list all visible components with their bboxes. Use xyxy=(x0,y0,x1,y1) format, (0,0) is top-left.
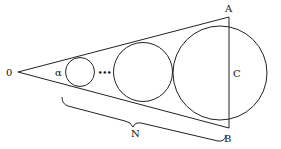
label-ellipsis: ••• xyxy=(98,68,111,77)
cone-lower-line xyxy=(18,72,229,128)
large-circle xyxy=(173,26,267,120)
small-circle xyxy=(66,58,95,87)
label-angle: α xyxy=(55,67,62,78)
label-chord-c: C xyxy=(233,68,241,79)
brace-n xyxy=(62,97,226,141)
label-point-b: B xyxy=(224,133,231,144)
cone-circles-diagram: 0 α ••• A B C N xyxy=(0,0,281,149)
label-point-a: A xyxy=(224,3,233,14)
label-apex: 0 xyxy=(6,67,12,78)
medium-circle xyxy=(114,43,173,102)
cone-upper-line xyxy=(18,17,229,72)
label-count-n: N xyxy=(131,128,140,139)
